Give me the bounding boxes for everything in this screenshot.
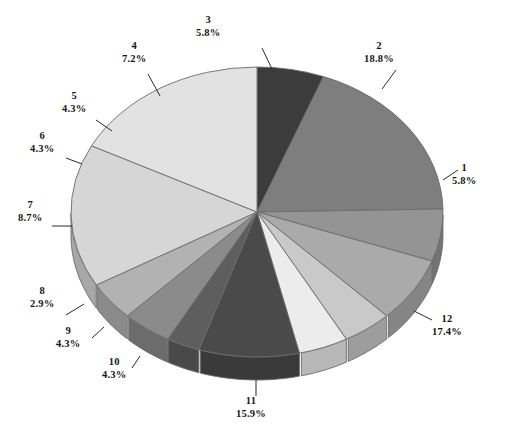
pie-chart: 1 5.8% 2 18.8% 3 5.8% 4 7.2% 5 4.3% 6 4.…	[0, 0, 520, 444]
pie-top-surface	[71, 67, 443, 357]
leader-line-s3	[262, 48, 272, 69]
leader-line-s8	[66, 304, 84, 315]
leader-line-s6	[66, 158, 82, 164]
pie-chart-canvas	[0, 0, 520, 444]
leader-line-s10	[132, 356, 140, 368]
leader-line-s2	[382, 70, 396, 89]
leader-line-s1	[443, 170, 458, 180]
leader-line-s12	[414, 311, 432, 320]
leader-line-s9	[92, 327, 104, 338]
